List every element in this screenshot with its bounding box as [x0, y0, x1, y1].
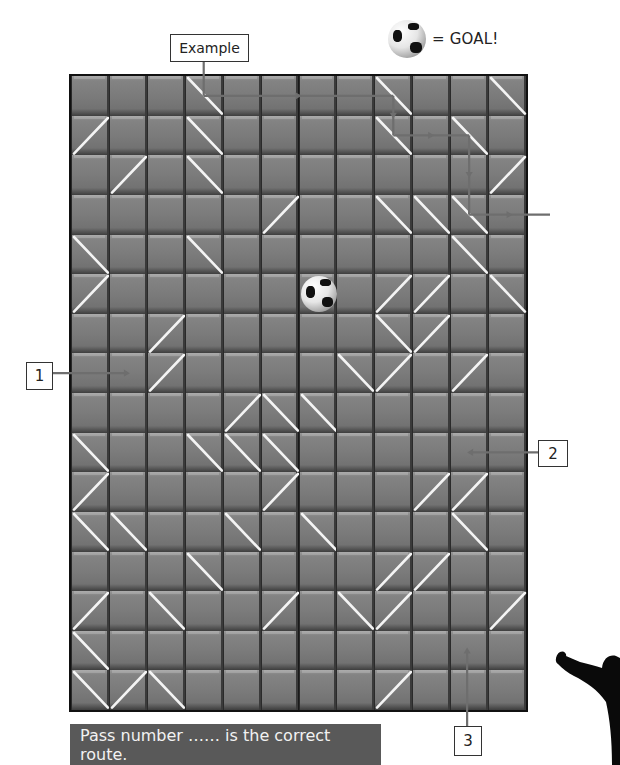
board-cell: [109, 393, 147, 433]
board-cell: [336, 155, 374, 195]
board-cell: [412, 235, 450, 275]
board-cell: [488, 155, 526, 195]
mirror-back-slash: [224, 433, 262, 473]
mirror-back-slash: [110, 512, 148, 552]
board-cell: [223, 76, 261, 116]
board-cell: [147, 274, 185, 314]
board-cell: [336, 116, 374, 156]
pass-3-label[interactable]: 3: [454, 726, 482, 756]
board-cell: [71, 353, 109, 393]
board-cell: [261, 393, 299, 433]
board-cell: [71, 670, 109, 710]
board-cell: [488, 591, 526, 631]
board-cell: [147, 393, 185, 433]
board-cell: [109, 195, 147, 235]
board-cell: [412, 591, 450, 631]
board-cell: [336, 235, 374, 275]
board-cell: [488, 235, 526, 275]
board-cell: [109, 552, 147, 592]
board-cell: [299, 472, 337, 512]
mirror-forward-slash: [262, 195, 300, 235]
board-cell: [412, 552, 450, 592]
board-cell: [299, 116, 337, 156]
mirror-back-slash: [72, 235, 110, 275]
board-cell: [450, 353, 488, 393]
board-cell: [147, 512, 185, 552]
board-cell: [450, 552, 488, 592]
answer-banner-text: Pass number …… is the correct route.: [80, 726, 381, 764]
board-cell: [71, 76, 109, 116]
board-cell: [488, 512, 526, 552]
answer-banner: Pass number …… is the correct route.: [70, 724, 381, 765]
board-cell: [336, 353, 374, 393]
board-cell: [71, 235, 109, 275]
board-cell: [147, 235, 185, 275]
board-cell: [147, 552, 185, 592]
board-cell: [71, 631, 109, 671]
board-cell: [71, 274, 109, 314]
board-cell: [261, 155, 299, 195]
board-cell: [488, 670, 526, 710]
mirror-back-slash: [413, 195, 451, 235]
board-cell: [450, 512, 488, 552]
board-cell: [412, 116, 450, 156]
board-cell: [374, 631, 412, 671]
mirror-back-slash: [451, 116, 489, 156]
board-cell: [109, 631, 147, 671]
mirror-forward-slash: [413, 314, 451, 354]
board-cell: [147, 472, 185, 512]
board-cell: [374, 433, 412, 473]
board-cell: [261, 512, 299, 552]
board-cell: [223, 116, 261, 156]
mirror-forward-slash: [413, 552, 451, 592]
mirror-back-slash: [489, 274, 527, 314]
board-cell: [261, 552, 299, 592]
board-cell: [412, 631, 450, 671]
board-cell: [223, 235, 261, 275]
board-cell: [185, 393, 223, 433]
mirror-forward-slash: [110, 670, 148, 710]
mirror-back-slash: [186, 433, 224, 473]
board-cell: [450, 76, 488, 116]
board-cell: [109, 353, 147, 393]
mirror-forward-slash: [262, 591, 300, 631]
board-cell: [374, 235, 412, 275]
board-cell: [223, 195, 261, 235]
mirror-back-slash: [451, 235, 489, 275]
board-cell: [223, 591, 261, 631]
board-cell: [336, 433, 374, 473]
board-cell: [223, 393, 261, 433]
board-cell: [488, 195, 526, 235]
pass-2-label[interactable]: 2: [538, 440, 568, 467]
board-cell: [185, 433, 223, 473]
board-cell: [488, 552, 526, 592]
board-cell: [109, 314, 147, 354]
board-cell: [336, 393, 374, 433]
board-cell: [299, 314, 337, 354]
board-cell: [336, 631, 374, 671]
board-cell: [336, 472, 374, 512]
board-cell: [223, 433, 261, 473]
board-cell: [71, 552, 109, 592]
board-cell: [374, 353, 412, 393]
board-cell: [299, 552, 337, 592]
mirror-back-slash: [300, 512, 338, 552]
board-cell: [488, 433, 526, 473]
board-cell: [488, 314, 526, 354]
mirror-back-slash: [186, 552, 224, 592]
mirror-forward-slash: [451, 353, 489, 393]
board-cell: [71, 393, 109, 433]
board-cell: [450, 631, 488, 671]
goal-ball-icon: [301, 276, 337, 312]
pass-1-label[interactable]: 1: [26, 362, 53, 390]
mirror-forward-slash: [148, 314, 186, 354]
board-cell: [336, 274, 374, 314]
board-cell: [488, 76, 526, 116]
board-cell: [374, 274, 412, 314]
board-cell: [109, 670, 147, 710]
goal-legend-text: = GOAL!: [432, 30, 499, 48]
board-cell: [185, 353, 223, 393]
board-cell: [261, 433, 299, 473]
goalkeeper-silhouette: [540, 640, 620, 765]
mirror-forward-slash: [148, 353, 186, 393]
